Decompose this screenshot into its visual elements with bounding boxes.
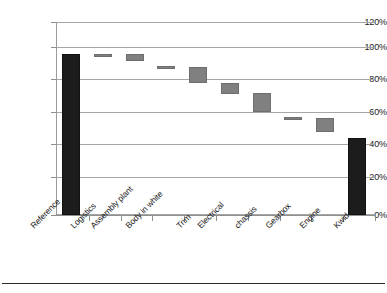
x-tick-mark xyxy=(121,216,122,221)
gridline-40 xyxy=(57,144,375,145)
waterfall-chart: 120% 100% 80% 60% 40% 20% 0% xyxy=(0,0,387,293)
bar-body-in-white[interactable] xyxy=(157,66,175,69)
plot-area xyxy=(57,22,375,215)
gridline-80 xyxy=(57,79,375,80)
gridline-100 xyxy=(57,47,375,48)
bar-trim[interactable] xyxy=(189,67,207,83)
gridline-60 xyxy=(57,112,375,113)
bar-assembly-plant[interactable] xyxy=(126,54,144,61)
bar-gearbox[interactable] xyxy=(284,117,302,120)
x-tick-mark xyxy=(152,216,153,221)
bar-logistics[interactable] xyxy=(94,54,112,57)
gridline-120 xyxy=(57,22,375,23)
bar-engine[interactable] xyxy=(316,118,334,132)
x-tick-mark xyxy=(216,216,217,221)
bar-reference[interactable] xyxy=(62,54,80,215)
bar-chassis[interactable] xyxy=(253,93,271,112)
bottom-divider xyxy=(2,283,385,284)
x-tick-mark xyxy=(375,216,376,221)
bar-kwid[interactable] xyxy=(348,138,366,215)
gridline-20 xyxy=(57,177,375,178)
bar-electrical[interactable] xyxy=(221,83,239,94)
